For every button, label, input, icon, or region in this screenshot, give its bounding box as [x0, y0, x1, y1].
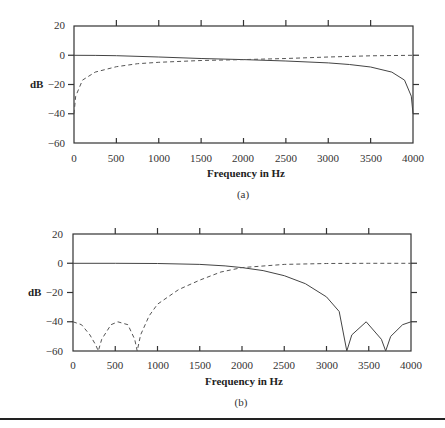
solid-curve	[74, 55, 413, 114]
x-tick-label: 500	[108, 152, 125, 164]
x-tick-label: 500	[107, 359, 124, 371]
dashed-curve	[74, 55, 413, 114]
y-tick-label: 0	[58, 257, 64, 269]
y-tick-label: −20	[46, 286, 64, 298]
x-tick-label: 1000	[148, 152, 171, 164]
panel-a: 20 0 −20 −40 −60 0 500 1000 1500 2000 25…	[30, 19, 425, 201]
y-tick-label: 20	[54, 19, 66, 31]
series-b	[73, 263, 411, 351]
x-tick-label: 1500	[189, 359, 212, 371]
y-axis-title-b: dB	[28, 286, 42, 298]
x-tick-label: 3500	[358, 359, 381, 371]
x-tick-label: 3500	[360, 152, 383, 164]
x-axis-title-b: Frequency in Hz	[205, 375, 283, 387]
y-tick-label: −20	[48, 78, 66, 90]
dashed-curve	[73, 263, 411, 351]
plot-frame-a	[74, 26, 413, 143]
y-tick-label: 20	[52, 228, 64, 240]
y-tick-label: 0	[60, 49, 66, 61]
x-tick-label: 3000	[316, 359, 339, 371]
y-tick-label: −60	[46, 345, 64, 357]
figure: 20 0 −20 −40 −60 0 500 1000 1500 2000 25…	[0, 0, 445, 428]
x-tick-label: 0	[71, 152, 77, 164]
x-tick-label: 3000	[317, 152, 340, 164]
x-tick-label: 2000	[232, 152, 255, 164]
y-tick-labels-a: 20 0 −20 −40 −60	[48, 19, 66, 149]
x-tick-label: 0	[70, 359, 76, 371]
plot-frame-b	[73, 234, 411, 351]
y-axis-title-a: dB	[30, 78, 44, 90]
caption-a: (a)	[237, 188, 250, 201]
caption-b: (b)	[235, 396, 248, 409]
series-a	[74, 55, 413, 114]
y-tick-label: −60	[48, 137, 66, 149]
y-tick-labels-b: 20 0 −20 −40 −60	[46, 228, 64, 357]
ticks-b	[67, 228, 417, 351]
solid-curve	[73, 263, 411, 351]
x-tick-label: 1000	[147, 359, 170, 371]
x-tick-label: 4000	[402, 152, 425, 164]
x-tick-label: 2000	[231, 359, 254, 371]
y-tick-label: −40	[48, 107, 66, 119]
x-tick-label: 2500	[273, 359, 296, 371]
x-tick-label: 4000	[400, 359, 423, 371]
x-tick-labels-b: 0 500 1000 1500 2000 2500 3000 3500 4000	[70, 359, 422, 371]
x-tick-label: 1500	[190, 152, 213, 164]
ticks-a	[68, 20, 419, 143]
y-tick-label: −40	[46, 315, 64, 327]
panel-b: 20 0 −20 −40 −60 0 500 1000 1500 2000 25…	[28, 228, 423, 409]
x-axis-title-a: Frequency in Hz	[207, 167, 285, 179]
x-tick-labels-a: 0 500 1000 1500 2000 2500 3000 3500 4000	[71, 152, 424, 164]
x-tick-label: 2500	[275, 152, 298, 164]
